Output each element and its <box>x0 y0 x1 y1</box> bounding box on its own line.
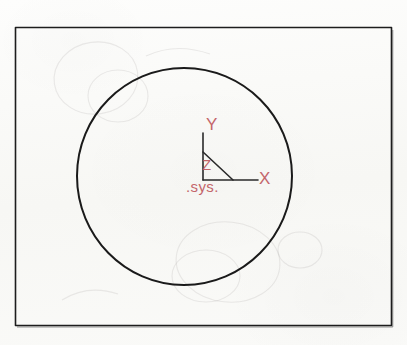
axis-label-z: Z <box>202 157 211 172</box>
sketch-canvas: Y X Z .sys. <box>0 0 407 345</box>
ghost-construction-marks <box>49 37 322 308</box>
axis-label-x: X <box>259 170 270 187</box>
axis-system-annotation: .sys. <box>186 179 219 194</box>
coordinate-axes <box>203 133 258 180</box>
axis-label-y: Y <box>206 116 217 133</box>
